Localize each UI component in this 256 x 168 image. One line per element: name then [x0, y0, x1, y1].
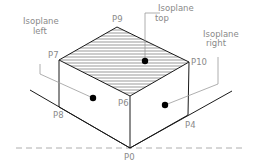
label-isoplane-left-2: left: [33, 26, 47, 36]
label-p7: P7: [48, 50, 59, 60]
label-isoplane-top-2: top: [155, 13, 169, 23]
label-p4: P4: [185, 120, 196, 130]
dot-isoplane-top: [142, 58, 148, 64]
label-isoplane-right-2: right: [206, 38, 227, 48]
label-p9: P9: [112, 14, 123, 24]
top-face-hatch: [50, 30, 200, 93]
isometric-diagram: Isoplane left Isoplane top Isoplane righ…: [0, 0, 256, 168]
label-p8: P8: [53, 110, 64, 120]
label-p0: P0: [124, 152, 135, 162]
label-p10: P10: [191, 57, 207, 67]
label-isoplane-left-1: Isoplane: [23, 16, 59, 26]
dot-isoplane-left: [90, 95, 96, 101]
top-face: [59, 27, 189, 96]
dot-isoplane-right: [162, 102, 168, 108]
label-isoplane-top-1: Isoplane: [158, 3, 194, 13]
label-p6: P6: [118, 98, 129, 108]
